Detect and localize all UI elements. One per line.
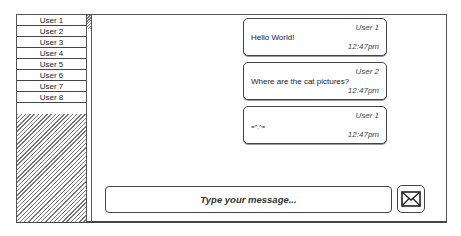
user-list-item[interactable]: User 1 <box>17 15 86 26</box>
user-list-item[interactable]: User 4 <box>17 48 86 59</box>
scrollbar-thumb[interactable] <box>87 15 91 29</box>
message-bubble: User 1 =^.^= 12:47pm <box>243 106 387 144</box>
user-list-scrollbar[interactable] <box>87 15 92 222</box>
message-time: 12:47pm <box>348 86 379 95</box>
user-list-item[interactable]: User 3 <box>17 37 86 48</box>
message-bubble: User 2 Where are the cat pictures? 12:47… <box>243 62 387 100</box>
user-list-item[interactable]: User 2 <box>17 26 86 37</box>
user-list-item[interactable]: User 7 <box>17 81 86 92</box>
message-sender: User 1 <box>355 111 379 120</box>
message-input[interactable]: Type your message... <box>105 186 392 213</box>
message-sender: User 2 <box>355 67 379 76</box>
message-time: 12:47pm <box>348 130 379 139</box>
message-time: 12:47pm <box>348 42 379 51</box>
user-list-item[interactable]: User 8 <box>17 92 86 103</box>
user-list-item[interactable]: User 5 <box>17 59 86 70</box>
message-text: Where are the cat pictures? <box>251 77 349 86</box>
message-bubble: User 1 Hello World! 12:47pm <box>243 18 387 56</box>
empty-list-area <box>17 114 86 222</box>
send-button[interactable] <box>397 185 425 213</box>
message-text: Hello World! <box>251 33 294 42</box>
user-list-item[interactable]: User 6 <box>17 70 86 81</box>
message-text: =^.^= <box>251 124 265 130</box>
user-list: User 1 User 2 User 3 User 4 User 5 User … <box>17 15 87 222</box>
message-input-placeholder: Type your message... <box>200 194 296 205</box>
message-sender: User 1 <box>355 23 379 32</box>
envelope-icon <box>401 191 421 207</box>
